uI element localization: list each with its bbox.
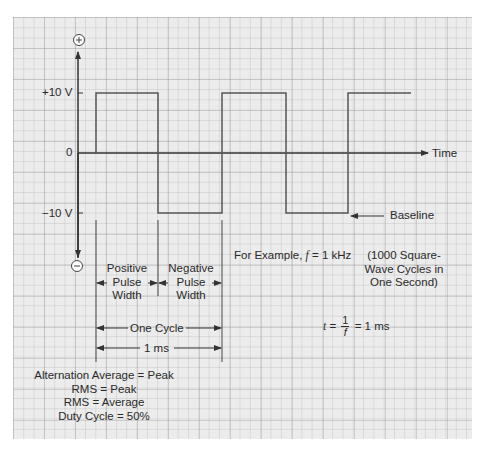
example-note: (1000 Square- Wave Cycles in One Second) (358, 249, 450, 290)
example-note-line1: (1000 Square- (358, 249, 450, 263)
baseline-label: Baseline (390, 210, 434, 222)
negative-pulse-line1: Negative (160, 262, 222, 276)
property-rms-peak: RMS = Peak (24, 383, 184, 397)
negative-pulse-line2: Pulse (160, 276, 222, 290)
example-note-line3: One Second) (358, 276, 450, 290)
tick-label-minus-10v: −10 V (42, 208, 72, 220)
formula-eq: = (326, 320, 339, 332)
property-duty-cycle: Duty Cycle = 50% (24, 410, 184, 424)
positive-pulse-line2: Pulse (98, 276, 156, 290)
one-cycle-label: One Cycle (130, 323, 184, 335)
formula-result: = 1 ms (351, 320, 389, 332)
tick-label-zero: 0 (66, 147, 72, 159)
example-note-line2: Wave Cycles in (358, 263, 450, 277)
positive-pulse-line3: Width (98, 289, 156, 303)
negative-pulse-width-label: Negative Pulse Width (160, 262, 222, 303)
period-formula: t = 1f = 1 ms (323, 315, 389, 338)
period-label: 1 ms (144, 343, 169, 355)
y-axis (78, 52, 83, 258)
waveform-properties: Alternation Average = Peak RMS = Peak RM… (24, 369, 184, 423)
positive-pulse-line1: Positive (98, 262, 156, 276)
negative-pulse-line3: Width (160, 289, 222, 303)
property-alternation-average: Alternation Average = Peak (24, 369, 184, 383)
example-prefix: For Example, (234, 249, 306, 261)
minus-circle-icon (72, 261, 83, 272)
formula-fraction: 1f (341, 315, 349, 338)
positive-pulse-width-label: Positive Pulse Width (98, 262, 156, 303)
example-value: = 1 kHz (309, 249, 352, 261)
time-axis-label: Time (432, 148, 457, 160)
formula-denominator: f (341, 327, 349, 338)
plus-circle-icon (74, 35, 85, 46)
property-rms-average: RMS = Average (24, 396, 184, 410)
example-frequency-text: For Example, f = 1 kHz (234, 250, 351, 262)
tick-label-plus-10v: +10 V (42, 87, 72, 99)
